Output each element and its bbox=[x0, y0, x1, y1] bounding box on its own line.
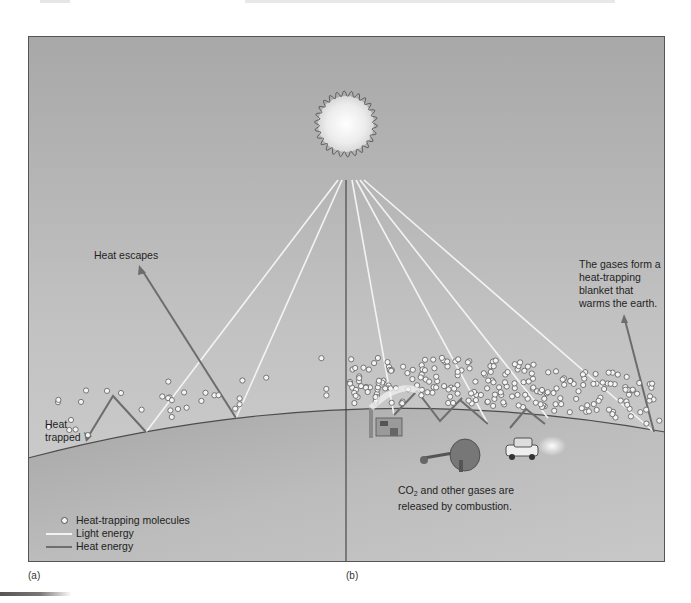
heat-trapping-molecule bbox=[361, 365, 366, 370]
heat-trapping-molecule bbox=[625, 402, 630, 407]
heat-trapping-molecule bbox=[425, 390, 430, 395]
heat-trapping-molecule bbox=[445, 364, 450, 369]
heat-trapping-molecule bbox=[182, 390, 187, 395]
heat-trapping-molecule bbox=[512, 362, 517, 367]
legend-item-molecules: Heat-trapping molecules bbox=[42, 514, 190, 527]
heat-trapping-molecule bbox=[319, 356, 324, 361]
heat-trapping-molecule bbox=[552, 408, 557, 413]
heat-trapping-molecule bbox=[505, 370, 510, 375]
heat-trapping-molecule bbox=[442, 384, 447, 389]
legend-label: Heat energy bbox=[76, 540, 133, 553]
heat-trapping-molecule bbox=[439, 355, 444, 360]
heat-trapping-molecule bbox=[635, 391, 640, 396]
heat-trapping-molecule bbox=[485, 386, 490, 391]
heat-trapping-molecule bbox=[465, 360, 470, 365]
heat-trapping-molecule bbox=[551, 390, 556, 395]
heat-trapping-molecule bbox=[526, 379, 531, 384]
heat-trapping-molecule bbox=[410, 377, 415, 382]
heat-trapping-molecule bbox=[586, 409, 591, 414]
heat-trapping-molecule bbox=[529, 371, 534, 376]
heat-trapping-molecule bbox=[139, 407, 144, 412]
heat-trapping-molecule bbox=[445, 359, 450, 364]
heat-trapping-molecule bbox=[502, 380, 507, 385]
heat-trapping-molecule bbox=[166, 379, 171, 384]
heat-trapping-molecule bbox=[492, 392, 497, 397]
heat-trapping-molecule bbox=[610, 412, 615, 417]
heat-trapping-molecule bbox=[486, 378, 491, 383]
legend-item-light: Light energy bbox=[42, 527, 190, 540]
heat-trapping-molecule bbox=[473, 379, 478, 384]
heat-trapping-molecule bbox=[389, 400, 394, 405]
molecule-circle-icon bbox=[61, 517, 68, 524]
heat-trapping-molecule bbox=[538, 402, 543, 407]
heat-trapping-molecule bbox=[452, 386, 457, 391]
blanket-line4: warms the earth. bbox=[579, 297, 661, 310]
heat-trapping-molecule bbox=[615, 372, 620, 377]
heat-trapping-molecule bbox=[522, 368, 527, 373]
heat-trapping-molecule bbox=[422, 368, 427, 373]
heat-trapping-molecule bbox=[638, 410, 643, 415]
heat-trapping-molecule bbox=[56, 397, 61, 402]
heat-trapping-molecule bbox=[434, 385, 439, 390]
blanket-label: The gases form a heat-trapping blanket t… bbox=[579, 258, 661, 310]
heat-trapping-molecule bbox=[385, 360, 390, 365]
heat-trapping-molecule bbox=[456, 357, 461, 362]
heat-trapping-molecule bbox=[576, 389, 581, 394]
heat-trapping-molecule bbox=[389, 368, 394, 373]
heat-trapping-molecule bbox=[626, 392, 631, 397]
heat-trapping-molecule bbox=[478, 392, 483, 397]
heat-trapping-molecule bbox=[546, 370, 551, 375]
heat-trapping-molecule bbox=[509, 394, 514, 399]
heat-trapping-molecule bbox=[593, 371, 598, 376]
heat-trapping-molecule bbox=[264, 375, 269, 380]
heat-trapping-molecule bbox=[523, 392, 528, 397]
heat-trapping-molecule bbox=[591, 381, 596, 386]
heat-trapping-molecule bbox=[630, 387, 635, 392]
heat-trapping-molecule bbox=[542, 396, 547, 401]
heat-trapping-molecule bbox=[531, 362, 536, 367]
heat-trapping-molecule bbox=[466, 398, 471, 403]
heat-trapping-molecule bbox=[553, 369, 558, 374]
heat-trapping-molecule bbox=[497, 385, 502, 390]
heat-trapping-molecule bbox=[357, 376, 362, 381]
heat-trapping-molecule bbox=[237, 402, 242, 407]
heat-trapping-molecule bbox=[455, 369, 460, 374]
heat-trapping-molecule bbox=[169, 398, 174, 403]
heat-trapping-molecule bbox=[184, 405, 189, 410]
heat-trapping-molecule bbox=[594, 407, 599, 412]
heat-trapping-molecule bbox=[585, 403, 590, 408]
heat-trapping-molecule bbox=[637, 380, 642, 385]
heat-trapping-molecule bbox=[434, 374, 439, 379]
heat-trapping-molecule bbox=[352, 401, 357, 406]
heat-trapping-molecule bbox=[237, 396, 242, 401]
panel-b-label: (b) bbox=[346, 570, 358, 581]
light-line-icon bbox=[46, 533, 72, 535]
heat-trapping-molecule bbox=[521, 380, 526, 385]
heat-trapping-molecule bbox=[432, 366, 437, 371]
heat-trapping-molecule bbox=[203, 390, 208, 395]
heat-trapping-molecule bbox=[446, 400, 451, 405]
heat-trapping-molecule bbox=[491, 380, 496, 385]
heat-trapping-molecule bbox=[451, 400, 456, 405]
heat-trapping-molecule bbox=[365, 389, 370, 394]
heat-trapping-molecule bbox=[579, 406, 584, 411]
heat-trapping-molecule bbox=[560, 377, 565, 382]
legend-label: Heat-trapping molecules bbox=[76, 514, 190, 527]
heat-trapping-molecule bbox=[554, 386, 559, 391]
heat-trapping-molecule bbox=[410, 367, 415, 372]
heat-escapes-label: Heat escapes bbox=[94, 249, 158, 262]
heat-trapping-molecule bbox=[430, 390, 435, 395]
legend-label: Light energy bbox=[76, 527, 134, 540]
legend-item-heat: Heat energy bbox=[42, 540, 190, 553]
heat-trapping-molecule bbox=[516, 403, 521, 408]
heat-trapping-molecule bbox=[455, 391, 460, 396]
heat-trapping-molecule bbox=[160, 394, 165, 399]
heat-trapping-molecule bbox=[491, 403, 496, 408]
heat-trapping-molecule bbox=[644, 407, 649, 412]
heat-trapping-molecule bbox=[347, 381, 352, 386]
blanket-line3: blanket that bbox=[579, 284, 661, 297]
blanket-line1: The gases form a bbox=[579, 258, 661, 271]
heat-trapping-molecule bbox=[518, 360, 523, 365]
heat-trapping-molecule bbox=[657, 418, 662, 423]
heat-trapping-molecule bbox=[422, 357, 427, 362]
